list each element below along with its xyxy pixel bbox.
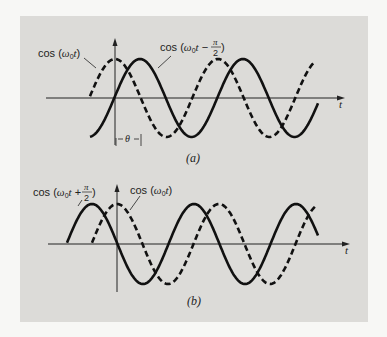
svg-text:π: π — [84, 182, 89, 192]
theta-label: θ — [125, 133, 130, 144]
label-cos-w0t: cos (ω0t) — [38, 47, 80, 60]
label-cos-minus: cos (ω0t − — [160, 41, 208, 54]
label-cos-plus: cos (ω0t + — [33, 186, 81, 199]
svg-text:): ) — [221, 41, 225, 53]
leader-line — [84, 58, 96, 68]
panel-b: t cos (ω0t + π 2 ) cos (ω0t) (b) — [33, 182, 350, 308]
arrow-icon — [115, 184, 120, 192]
svg-text:2: 2 — [213, 48, 218, 58]
arrow-icon — [113, 38, 118, 46]
leader-line — [130, 196, 140, 210]
leader-line — [78, 200, 82, 206]
label-cos-w0t-b: cos (ω0t) — [130, 184, 172, 197]
pi-text: π — [213, 37, 218, 47]
t-axis-label: t — [339, 98, 343, 110]
caption-b: (b) — [187, 294, 201, 308]
caption-a: (a) — [186, 151, 200, 165]
svg-text:2: 2 — [84, 193, 89, 203]
svg-text:): ) — [92, 186, 96, 198]
waveform-diagram: t cos (ω0t) cos (ω0t − π 2 ) θ (a) t cos… — [0, 0, 387, 337]
t-axis-label: t — [345, 244, 349, 256]
leader-line — [158, 56, 171, 68]
panel-a: t cos (ω0t) cos (ω0t − π 2 ) θ (a) — [38, 37, 345, 165]
